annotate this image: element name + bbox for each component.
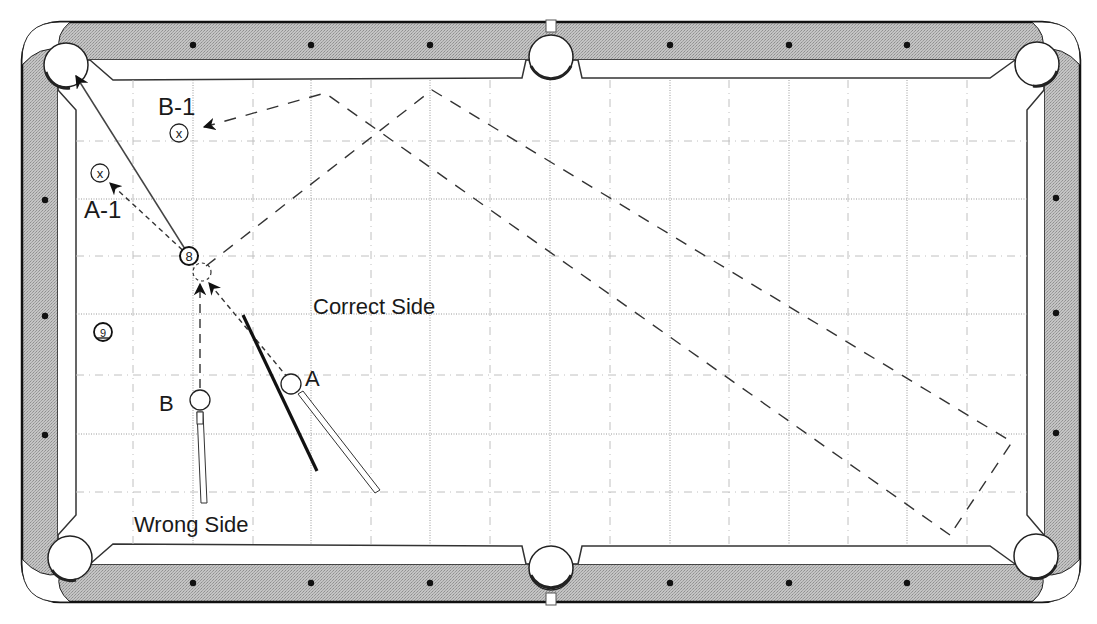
svg-text:x: x (97, 166, 104, 181)
label-wrong-side: Wrong Side (134, 512, 249, 537)
target-mark-a1: x (91, 164, 109, 182)
cue-ball-b (190, 390, 210, 410)
label-a: A (305, 366, 320, 391)
nine-ball: 9 (94, 323, 112, 341)
label-b1: B-1 (158, 93, 195, 120)
pool-table-diagram: 8 9 x x B-1 A-1 Correct Side Wrong Side … (0, 0, 1097, 624)
label-b: B (159, 391, 174, 416)
svg-text:8: 8 (185, 249, 192, 264)
cue-ball-a (281, 374, 301, 394)
eight-ball: 8 (180, 247, 198, 265)
label-a1: A-1 (84, 196, 121, 223)
svg-text:9: 9 (100, 327, 106, 339)
label-correct-side: Correct Side (313, 294, 435, 319)
target-mark-b1: x (170, 124, 188, 142)
svg-text:x: x (176, 126, 183, 141)
